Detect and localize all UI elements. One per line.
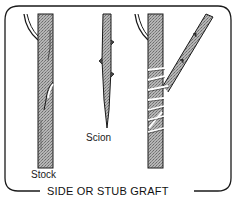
scion-drawing — [99, 14, 114, 128]
figure-caption: SIDE OR STUB GRAFT — [44, 186, 172, 197]
grafted-trunk-drawing — [135, 14, 213, 168]
stock-drawing — [24, 14, 53, 168]
scion-label: Scion — [86, 133, 111, 143]
stock-label: Stock — [31, 170, 56, 180]
graft-illustration: Stock Scion SIDE OR STUB GRAFT — [0, 0, 236, 199]
